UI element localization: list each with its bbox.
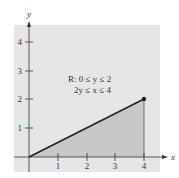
y-tick-label: 2 <box>18 94 23 104</box>
y-tick-label: 3 <box>18 66 23 76</box>
x-tick-label: 1 <box>56 161 61 171</box>
x-axis-arrow-icon <box>162 155 168 159</box>
region-annotation-line2: 2y ≤ x ≤ 4 <box>74 85 111 95</box>
x-tick-label: 4 <box>142 161 147 171</box>
x-axis-label: x <box>170 152 175 162</box>
y-tick-label: 4 <box>18 37 23 47</box>
endpoint-dot <box>142 97 146 101</box>
y-axis-arrow-icon <box>27 21 31 27</box>
y-tick-label: 1 <box>18 123 23 133</box>
x-tick-label: 2 <box>85 161 90 171</box>
y-axis-label: y <box>26 9 31 19</box>
x-tick-label: 3 <box>113 161 118 171</box>
region-annotation-line1: R: 0 ≤ y ≤ 2 <box>68 74 111 84</box>
region-plot: 1 2 3 4 1 2 3 4 x y R: 0 ≤ y ≤ 2 2y ≤ x … <box>0 0 179 178</box>
